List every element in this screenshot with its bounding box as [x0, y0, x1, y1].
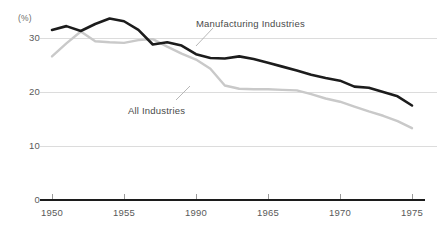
chart-plot-area [0, 0, 443, 231]
y-axis-tick-label: 10 [14, 141, 40, 151]
x-axis-ticks [52, 194, 412, 199]
gridlines [40, 38, 437, 146]
x-axis-tick-label: 1990 [174, 208, 218, 218]
x-axis-tick-label: 1975 [390, 208, 434, 218]
leader-line [176, 86, 190, 100]
x-axis-tick-label: 1970 [318, 208, 362, 218]
x-axis-tick-label: 1955 [102, 208, 146, 218]
series-line [52, 32, 412, 129]
y-axis-unit-label: (%) [18, 14, 52, 23]
chart-container: (%) 3020100 195019551990196519701975 Man… [0, 0, 443, 231]
series-lines [52, 19, 412, 129]
leader-line [196, 28, 213, 46]
series-annotation-label: All Industries [128, 106, 185, 116]
y-axis-tick-label: 0 [14, 195, 40, 205]
x-axis-tick-label: 1950 [30, 208, 74, 218]
y-axis-tick-label: 30 [14, 33, 40, 43]
x-axis-tick-label: 1965 [246, 208, 290, 218]
series-annotation-label: Manufacturing Industries [196, 19, 305, 29]
annotation-leader-lines [176, 28, 213, 100]
y-axis-tick-label: 20 [14, 87, 40, 97]
